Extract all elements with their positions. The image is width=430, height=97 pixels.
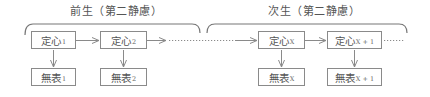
node-avijnapti-x-plus-1: 無表X + 1 <box>327 68 382 86</box>
node-subscript: 1 <box>62 75 66 83</box>
node-avijnapti-2: 無表2 <box>100 68 147 86</box>
node-label: 無表 <box>41 70 61 85</box>
node-avijnapti-x: 無表X <box>258 68 305 86</box>
node-samadhi-2: 定心2 <box>100 31 147 49</box>
node-subscript: 1 <box>62 38 66 46</box>
diagram-canvas: 前生（第二静慮） 次生（第二静慮） 定心1 定心2 定心X 定心X + 1 無表… <box>0 0 430 97</box>
node-label: 無表 <box>269 70 289 85</box>
node-avijnapti-1: 無表1 <box>31 68 76 86</box>
node-samadhi-1: 定心1 <box>31 31 76 49</box>
node-label: 定心 <box>335 33 355 48</box>
group-title-next: 次生（第二静慮） <box>268 5 360 19</box>
node-samadhi-x: 定心X <box>258 31 305 49</box>
node-label: 定心 <box>41 33 61 48</box>
node-label: 無表 <box>335 70 355 85</box>
node-samadhi-x-plus-1: 定心X + 1 <box>327 31 382 49</box>
node-label: 定心 <box>269 33 289 48</box>
node-subscript: X + 1 <box>356 38 374 46</box>
node-label: 定心 <box>111 33 131 48</box>
node-subscript: 2 <box>132 75 136 83</box>
node-label: 無表 <box>111 70 131 85</box>
node-subscript: X <box>290 75 295 83</box>
node-subscript: X + 1 <box>356 75 374 83</box>
group-title-previous: 前生（第二静慮） <box>70 5 162 19</box>
node-subscript: 2 <box>132 38 136 46</box>
node-subscript: X <box>290 38 295 46</box>
